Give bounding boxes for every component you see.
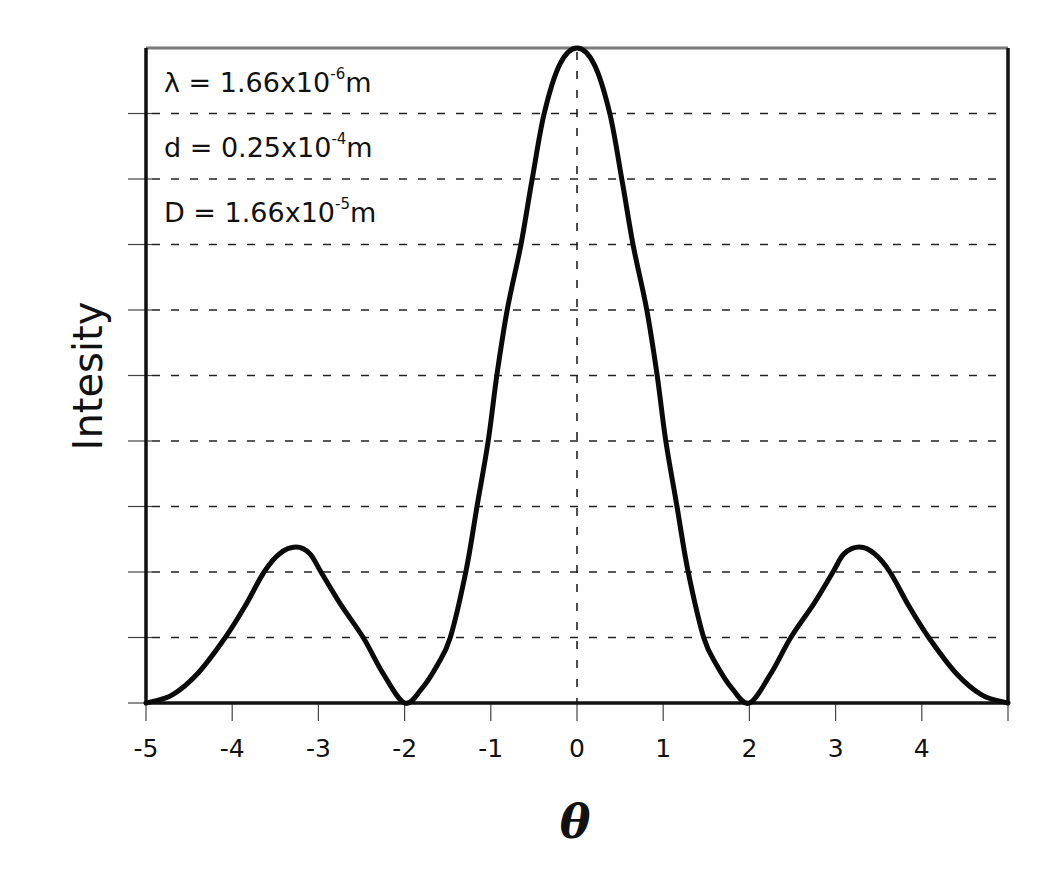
x-axis-ticks <box>146 703 1008 721</box>
x-tick-label: -4 <box>220 734 245 763</box>
x-tick-label: -1 <box>478 734 503 763</box>
parameter-annotation: D = 1.66x10-5m <box>164 195 376 228</box>
x-axis-label: θ <box>560 795 591 849</box>
y-axis-ticks <box>128 114 152 704</box>
x-tick-label: 4 <box>914 734 930 763</box>
x-tick-label: 1 <box>655 734 671 763</box>
parameter-annotation: d = 0.25x10-4m <box>164 130 373 163</box>
intensity-chart: λ = 1.66x10-6md = 0.25x10-4mD = 1.66x10-… <box>0 0 1061 888</box>
x-tick-labels: -5-4-3-2-101234 <box>134 734 930 763</box>
x-tick-label: -3 <box>306 734 331 763</box>
x-tick-label: 3 <box>828 734 844 763</box>
x-tick-label: 0 <box>569 734 585 763</box>
x-tick-label: -5 <box>134 734 159 763</box>
x-tick-label: 2 <box>741 734 757 763</box>
y-axis-label: Intesity <box>65 302 111 451</box>
parameter-annotation: λ = 1.66x10-6m <box>164 65 372 98</box>
x-tick-label: -2 <box>392 734 417 763</box>
parameter-annotations: λ = 1.66x10-6md = 0.25x10-4mD = 1.66x10-… <box>164 65 376 228</box>
